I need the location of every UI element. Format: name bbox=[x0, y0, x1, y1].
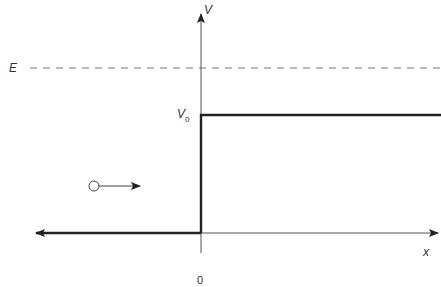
v-axis-label: V bbox=[204, 4, 212, 16]
step-height-label-main: V bbox=[177, 107, 185, 121]
potential-step-diagram bbox=[0, 0, 441, 287]
x-axis-label: x bbox=[423, 246, 429, 258]
particle-circle bbox=[89, 181, 99, 191]
origin-label: 0 bbox=[197, 274, 203, 286]
step-height-label: V0 bbox=[177, 108, 189, 122]
step-height-label-subscript: 0 bbox=[185, 115, 189, 124]
potential-step-line bbox=[201, 115, 441, 233]
energy-label: E bbox=[9, 62, 17, 74]
